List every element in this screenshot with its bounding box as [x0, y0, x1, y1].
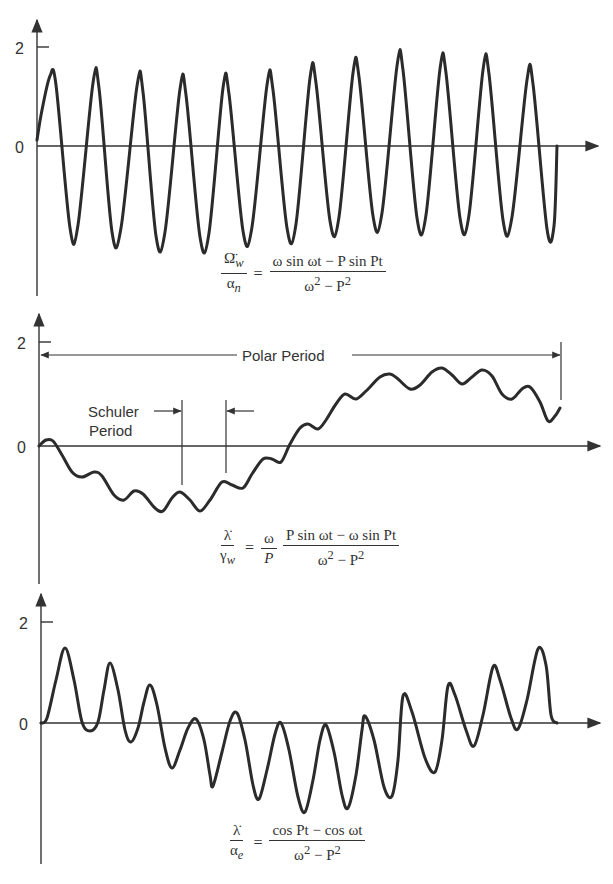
y-tick-label-2: 2 [17, 335, 26, 352]
sub-e: e [238, 848, 244, 862]
lambda-dot: λ̇ [230, 822, 243, 841]
formula-panel-2: λ̇ γw = ω P P sin ωt − ω sin Pt ω2 − P2 [214, 527, 402, 569]
polar-period-label: Polar Period [242, 347, 325, 364]
formula-lhs: λ̇ γw [217, 527, 238, 569]
y-tick-label-2: 2 [15, 40, 24, 57]
y-tick-label-0: 0 [19, 716, 28, 733]
formula-panel-3: λ̇ αe = cos Pt − cos ωt ω2 − P2 [224, 822, 368, 864]
y-tick-label-2: 2 [19, 615, 28, 632]
sub-w: w [227, 553, 235, 567]
y-tick-label-0: 0 [15, 139, 24, 156]
rhs-denominator: ω2 − P2 [291, 841, 344, 864]
formula-lhs: λ̇ αe [227, 822, 246, 864]
equals-sign: = [253, 834, 262, 852]
formula-rhs: cos Pt − cos ωt ω2 − P2 [269, 822, 365, 864]
schuler-label-line1: Schuler [88, 403, 139, 420]
rhs-numerator: cos Pt − cos ωt [269, 822, 365, 841]
alpha: α [230, 842, 238, 858]
lambda-dot: λ̇ [221, 527, 234, 546]
sub-w: w [235, 256, 243, 270]
coef-P: P [264, 550, 273, 566]
gamma: γ [220, 547, 227, 563]
y-tick-label-0: 0 [17, 439, 26, 456]
rhs-numerator: ω sin ωt − P sin Pt [270, 253, 386, 272]
formula-rhs: P sin ωt − ω sin Pt ω2 − P2 [283, 527, 399, 569]
alpha: α [227, 275, 235, 291]
formula-panel-1: Ω̈w αn = ω sin ωt − P sin Pt ω2 − P2 [218, 250, 389, 297]
rhs-denominator: ω2 − P2 [315, 546, 368, 569]
schuler-label-line2: Period [89, 422, 132, 439]
omega-ddot: Ω̈ [224, 250, 235, 266]
curve-panel-3 [41, 647, 557, 812]
equals-sign: = [245, 539, 254, 557]
curve-panel-2 [39, 368, 560, 512]
formula-rhs: ω sin ωt − P sin Pt ω2 − P2 [270, 253, 386, 295]
equals-sign: = [254, 265, 263, 283]
formula-lhs: Ω̈w αn [221, 250, 247, 297]
curve-panel-1 [37, 50, 557, 253]
formula-coef: ω P [261, 530, 277, 567]
coef-omega: ω [261, 530, 277, 549]
sub-n: n [235, 281, 241, 295]
rhs-numerator: P sin ωt − ω sin Pt [283, 527, 399, 546]
figure-canvas: 2 0 2 0 Polar Period Schuler Period 2 0 [0, 0, 613, 884]
rhs-denominator: ω2 − P2 [301, 272, 354, 295]
